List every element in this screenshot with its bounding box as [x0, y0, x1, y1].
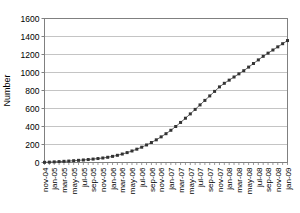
data-point-marker — [199, 103, 202, 106]
data-point-marker — [223, 82, 226, 85]
x-tick-label: jan-09 — [284, 167, 293, 191]
data-point-marker — [228, 79, 231, 82]
y-tick-label: 400 — [25, 122, 39, 132]
data-point-marker — [179, 121, 182, 124]
data-point-marker — [77, 159, 80, 162]
data-point-marker — [155, 138, 158, 141]
line-chart: 02004006008001000120014001600 nov-04jan-… — [0, 0, 300, 213]
data-point-marker — [135, 148, 138, 151]
data-point-marker — [150, 141, 153, 144]
gridlines-group — [45, 19, 288, 145]
data-point-marker — [208, 94, 211, 97]
data-point-marker — [87, 158, 90, 161]
x-tick-label: nov-07 — [216, 167, 225, 192]
x-tick-label: sep-05 — [89, 167, 98, 192]
x-tick-label: may-05 — [70, 167, 79, 194]
data-point-marker — [213, 90, 216, 93]
data-point-marker — [203, 99, 206, 102]
data-point-marker — [116, 154, 119, 157]
data-point-marker — [121, 153, 124, 156]
y-axis-ticks: 02004006008001000120014001600 — [21, 14, 45, 168]
data-point-marker — [271, 49, 274, 52]
data-point-marker — [286, 39, 289, 42]
data-point-marker — [165, 132, 168, 135]
data-point-marker — [262, 55, 265, 58]
series-line — [45, 41, 288, 163]
data-point-marker — [184, 117, 187, 120]
data-point-marker — [53, 160, 56, 163]
data-point-marker — [67, 160, 70, 163]
data-point-marker — [160, 135, 163, 138]
data-point-marker — [189, 112, 192, 115]
x-axis-ticks: nov-04jan-05mar-05may-05jul-05sep-05nov-… — [41, 163, 293, 195]
x-tick-label: mar-06 — [118, 167, 127, 193]
data-point-marker — [111, 155, 114, 158]
x-tick-label: may-06 — [128, 167, 137, 194]
data-point-marker — [242, 69, 245, 72]
x-tick-label: sep-07 — [206, 167, 215, 192]
y-tick-label: 800 — [25, 86, 39, 96]
data-point-marker — [218, 85, 221, 88]
data-point-marker — [237, 72, 240, 75]
x-tick-label: jan-05 — [50, 167, 59, 191]
x-tick-label: nov-06 — [157, 167, 166, 192]
data-point-marker — [174, 125, 177, 128]
data-point-marker — [247, 66, 250, 69]
x-tick-label: mar-08 — [235, 167, 244, 193]
data-point-marker — [281, 42, 284, 45]
y-tick-label: 1400 — [21, 32, 40, 42]
y-tick-label: 1200 — [21, 50, 40, 60]
y-axis-title: Number — [2, 74, 12, 106]
data-point-marker — [276, 45, 279, 48]
data-point-marker — [140, 146, 143, 149]
x-tick-label: nov-04 — [41, 167, 50, 192]
x-tick-label: jul-06 — [138, 167, 147, 188]
x-tick-label: may-07 — [187, 167, 196, 194]
data-point-marker — [257, 58, 260, 61]
data-point-marker — [252, 62, 255, 65]
data-point-marker — [101, 157, 104, 160]
data-series — [43, 39, 289, 164]
y-tick-label: 200 — [25, 140, 39, 150]
data-point-marker — [96, 157, 99, 160]
data-point-marker — [169, 129, 172, 132]
data-point-marker — [62, 160, 65, 163]
data-point-marker — [106, 156, 109, 159]
data-point-marker — [58, 160, 61, 163]
x-tick-label: jul-05 — [80, 167, 89, 188]
x-tick-label: sep-08 — [264, 167, 273, 192]
y-tick-label: 1600 — [21, 14, 40, 24]
data-point-marker — [82, 158, 85, 161]
x-tick-label: may-08 — [245, 167, 254, 194]
data-point-marker — [145, 143, 148, 146]
x-tick-label: mar-05 — [60, 167, 69, 193]
data-point-marker — [48, 161, 51, 164]
data-point-marker — [233, 76, 236, 79]
y-axis-title-text: Number — [2, 74, 12, 106]
x-tick-label: jan-06 — [109, 167, 118, 191]
data-point-marker — [72, 159, 75, 162]
x-tick-label: nov-08 — [274, 167, 283, 192]
chart-container: 02004006008001000120014001600 nov-04jan-… — [0, 0, 300, 213]
data-point-marker — [43, 161, 46, 164]
x-tick-label: sep-06 — [148, 167, 157, 192]
data-point-marker — [130, 149, 133, 152]
x-tick-label: jan-08 — [225, 167, 234, 191]
x-tick-label: jul-07 — [196, 167, 205, 188]
x-tick-label: nov-05 — [99, 167, 108, 192]
data-point-marker — [92, 158, 95, 161]
data-point-marker — [267, 52, 270, 55]
y-tick-label: 600 — [25, 104, 39, 114]
x-tick-label: mar-07 — [177, 167, 186, 193]
data-point-marker — [126, 151, 129, 154]
y-tick-label: 1000 — [21, 68, 40, 78]
y-tick-label: 0 — [35, 158, 40, 168]
data-point-marker — [194, 108, 197, 111]
x-tick-label: jan-07 — [167, 167, 176, 191]
x-tick-label: jul-08 — [255, 167, 264, 188]
